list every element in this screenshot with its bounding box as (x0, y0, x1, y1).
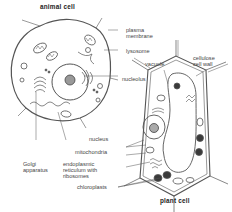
plant-cell-title: plant cell (160, 197, 190, 204)
plant-nucleolus (150, 124, 159, 133)
label-er-line3: ribosomes (63, 173, 89, 179)
animal-cell (11, 18, 118, 140)
animal-nucleolus (65, 75, 75, 85)
label-cellulose-line2: cell wall (193, 61, 213, 67)
cell-diagram (0, 0, 232, 212)
animal-plasma-membrane (11, 19, 110, 120)
label-vacuole: vacuole (145, 61, 164, 67)
animal-mitochondrion (32, 41, 48, 55)
label-chloroplasts: chloroplasts (77, 184, 107, 190)
label-plasma-membrane-line2: membrane (126, 33, 153, 39)
animal-lysosome (86, 48, 91, 53)
plant-mitochondrion (146, 147, 154, 153)
animal-golgi (34, 77, 46, 92)
label-lysosome: lysosome (126, 48, 150, 54)
animal-cell-title: animal cell (40, 3, 75, 10)
plant-chloroplast (154, 175, 162, 182)
plant-er (150, 159, 162, 169)
label-nucleus: nucleus (89, 136, 108, 142)
label-nucleolus: nucleolus (122, 76, 146, 82)
label-golgi-line2: apparatus (23, 167, 48, 173)
label-mitochondria: mitochondria (75, 149, 107, 155)
